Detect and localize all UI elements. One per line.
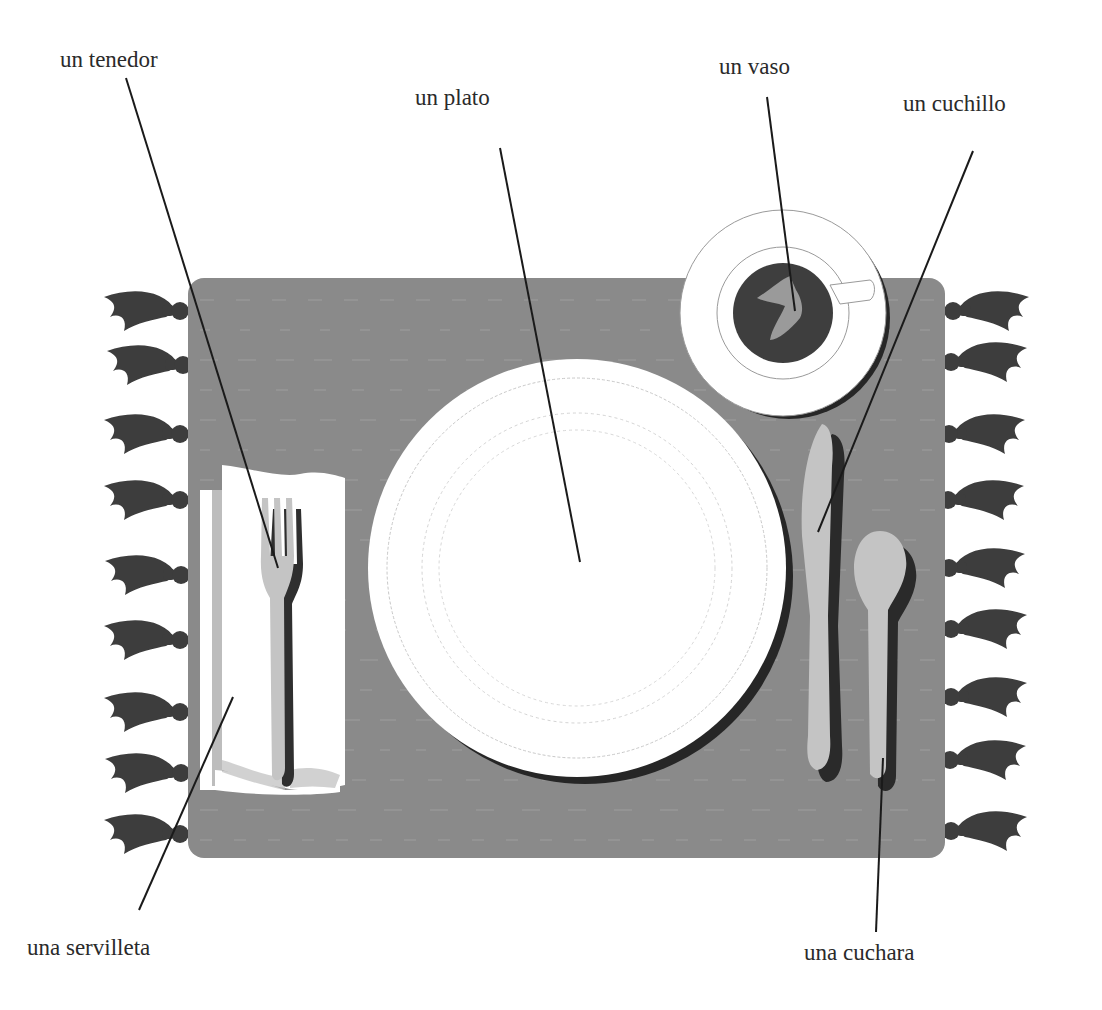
place-setting-illustration — [0, 0, 1102, 1010]
label-plato: un plato — [415, 86, 490, 109]
tassels-left — [104, 291, 192, 854]
label-vaso: un vaso — [719, 55, 790, 78]
label-cuchillo: un cuchillo — [903, 92, 1006, 115]
label-cuchara: una cuchara — [804, 941, 914, 964]
label-servilleta: una servilleta — [27, 936, 150, 959]
tassels-right — [939, 291, 1029, 851]
label-tenedor: un tenedor — [60, 48, 158, 71]
